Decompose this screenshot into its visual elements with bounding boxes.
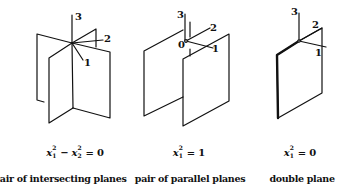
axis-label-1: 1 [315,48,322,58]
front-parallel-plane [183,34,229,126]
axis-label-2: 2 [312,20,319,30]
exponent: 2 [179,144,183,151]
double-plane-thick-edge [277,41,299,118]
intersecting-planes-figure [37,15,110,123]
axis-label-2: 2 [104,34,111,44]
axis-label-3: 3 [177,10,184,20]
origin-dot [185,40,188,43]
equals-sign: = [85,147,93,158]
rhs-value: 0 [97,147,104,158]
caption-parallel-planes: pair of parallel planes [135,173,245,184]
equals-sign: = [187,147,195,158]
caption-intersecting-planes: pair of intersecting planes [0,173,127,184]
exponent: 2 [290,144,294,151]
rhs-value: 0 [309,147,316,158]
intersection-line [72,43,73,108]
axis-label-3: 3 [75,12,82,22]
right-plane [72,43,110,118]
back-plane [37,34,72,102]
axis-label-1: 1 [212,44,219,54]
caption-double-plane: double plane [269,173,334,184]
origin-label: 0 [178,40,185,50]
exponent: 2 [52,144,56,151]
equation-intersecting: x21−x22=0 [46,147,104,158]
subscript: 1 [179,152,183,159]
axis-label-1: 1 [84,58,91,68]
front-left-plane [49,43,73,123]
axis-label-2: 2 [210,23,217,33]
rhs-value: 1 [198,147,205,158]
equation-parallel: x21=1 [173,147,205,158]
axis-label-3: 3 [291,7,298,17]
origin-dot [298,40,300,42]
diagram-line-art [0,0,345,192]
subscript: 2 [77,152,81,159]
exponent: 2 [77,144,81,151]
subscript: 1 [52,152,56,159]
equals-sign: = [298,147,306,158]
subscript: 1 [290,152,294,159]
equation-double: x21=0 [284,147,316,158]
minus-operator: − [60,147,68,158]
